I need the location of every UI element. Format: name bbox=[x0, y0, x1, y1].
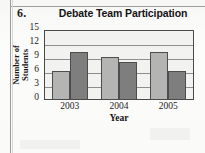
x-axis-tick: 2003 bbox=[45, 101, 94, 111]
plot-wrapper bbox=[44, 30, 194, 100]
bar-2003-series-1 bbox=[52, 71, 70, 99]
y-axis-tick: 3 bbox=[34, 79, 39, 89]
scan-smudge bbox=[150, 128, 190, 140]
y-axis-tick: 0 bbox=[34, 93, 39, 103]
y-axis-tick: 9 bbox=[34, 51, 39, 61]
x-axis-tick: 2004 bbox=[94, 101, 143, 111]
worksheet-page: 6. Debate Team Participation Number of S… bbox=[0, 0, 205, 153]
bar-group-2004 bbox=[95, 31, 144, 99]
bar-group-2005 bbox=[143, 31, 192, 99]
y-axis-tick: 12 bbox=[30, 37, 40, 47]
question-number: 6. bbox=[17, 6, 26, 21]
x-axis-tick-labels: 200320042005 bbox=[44, 101, 194, 111]
bar-groups bbox=[45, 31, 193, 99]
chart-title: Debate Team Participation bbox=[44, 7, 202, 19]
y-axis-tick: 6 bbox=[34, 65, 39, 75]
bar-2004-series-1 bbox=[101, 57, 119, 99]
scan-smudge bbox=[20, 140, 80, 149]
x-axis-tick: 2005 bbox=[144, 101, 193, 111]
y-axis-tick-labels: 03691215 bbox=[0, 28, 42, 98]
bar-2003-series-2 bbox=[70, 52, 88, 99]
y-axis-tick: 15 bbox=[30, 23, 40, 33]
x-axis-label: Year bbox=[44, 113, 194, 123]
plot-area bbox=[44, 30, 194, 100]
bar-2004-series-2 bbox=[119, 62, 137, 99]
bar-group-2003 bbox=[46, 31, 95, 99]
bar-2005-series-1 bbox=[150, 52, 168, 99]
bar-2005-series-2 bbox=[168, 71, 186, 99]
